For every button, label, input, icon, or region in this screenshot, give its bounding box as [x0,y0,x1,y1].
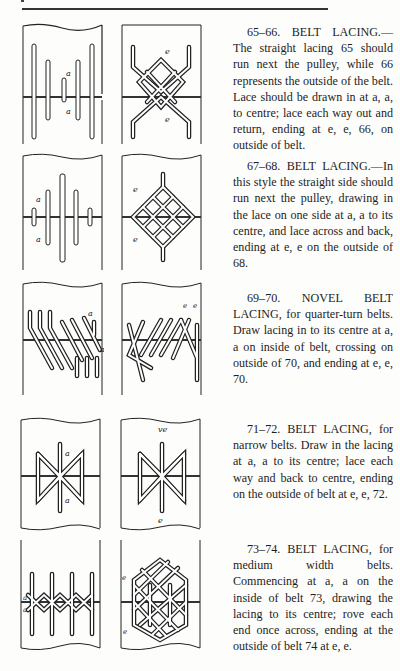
caption-73-74: 73–74. BELT LACING, for medium width bel… [233,541,393,654]
svg-text:e: e [165,115,170,124]
svg-text:a: a [36,195,41,204]
caption-text: 67–68. BELT LACING.—In this style the st… [233,158,393,271]
svg-text:e: e [133,235,138,244]
svg-text:a: a [66,107,71,116]
header-rule [22,8,328,10]
svg-text:e: e [133,185,138,194]
svg-text:a: a [65,449,70,458]
svg-text:ve: ve [158,425,168,434]
caption-67-68: 67–68. BELT LACING.—In this style the st… [233,158,393,271]
figure-65: a a [22,22,104,144]
figure-67: a a [22,152,104,270]
svg-text:a: a [65,496,70,505]
caption-text: 69–70. NOVEL BELT LACING, for quarter-tu… [233,290,393,387]
svg-text:e: e [183,302,187,310]
figure-71: a a [20,416,102,532]
caption-text: 65–66. BELT LACING.—The straight lacing … [233,24,393,154]
svg-text:e: e [158,516,163,525]
svg-text:a: a [88,309,93,318]
figure-66: e e [121,22,203,144]
svg-text:a: a [66,69,71,78]
svg-text:e: e [122,574,126,582]
caption-65-66: 65–66. BELT LACING.—The straight lacing … [233,24,393,154]
figure-68: e e [121,152,203,270]
svg-text:a: a [36,235,41,244]
svg-text:e: e [193,302,197,310]
figure-74: e e [120,540,202,656]
svg-text:e: e [123,628,127,636]
svg-text:a: a [100,345,104,354]
figure-72: ve e [120,416,202,532]
caption-69-70: 69–70. NOVEL BELT LACING, for quarter-tu… [233,290,393,387]
figure-69: a a [22,280,104,395]
caption-text: 73–74. BELT LACING, for medium width bel… [233,541,393,654]
caption-text: 71–72. BELT LACING, for narrow belts. Dr… [233,421,393,502]
figure-70: e e [121,280,203,395]
svg-text:a: a [23,606,27,614]
svg-text:e: e [165,47,170,56]
figure-73: a a [20,540,102,656]
page-corner-mark [21,0,24,2]
svg-text:a: a [23,594,27,602]
caption-71-72: 71–72. BELT LACING, for narrow belts. Dr… [233,421,393,502]
